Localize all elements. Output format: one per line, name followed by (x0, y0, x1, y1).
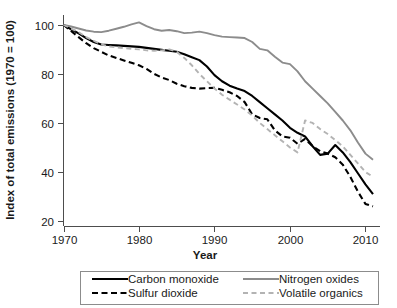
y-tick-label: 40 (41, 167, 54, 179)
x-tick-marks (65, 227, 366, 233)
x-tick-label: 1970 (52, 234, 78, 246)
legend-entries: Carbon monoxideNitrogen oxidesSulfur dio… (92, 273, 363, 299)
y-tick-label: 60 (41, 118, 54, 130)
legend-label-nitrogen-oxides: Nitrogen oxides (279, 273, 359, 285)
y-tick-labels: 20406080100 (35, 20, 54, 228)
x-tick-label: 1990 (202, 234, 228, 246)
legend: Carbon monoxideNitrogen oxidesSulfur dio… (81, 272, 379, 305)
emissions-index-chart: 20406080100 Index of total emissions (19… (0, 0, 397, 308)
legend-label-carbon-monoxide: Carbon monoxide (128, 273, 219, 285)
y-tick-marks (58, 26, 64, 222)
series-line-nitrogen-oxides (64, 22, 374, 159)
chart-canvas: 20406080100 Index of total emissions (19… (0, 0, 397, 308)
y-tick-label: 20 (41, 216, 54, 228)
y-tick-label: 100 (35, 20, 54, 32)
x-tick-label: 2000 (278, 234, 304, 246)
x-tick-labels: 19701980199020002010 (52, 234, 379, 246)
x-tick-label: 1980 (127, 234, 153, 246)
legend-label-sulfur-dioxide: Sulfur dioxide (128, 287, 198, 299)
x-axis-title: Year (193, 249, 218, 261)
legend-label-volatile-organics: Volatile organics (279, 287, 363, 299)
series-line-carbon-monoxide (64, 25, 374, 194)
series-line-sulfur-dioxide (64, 25, 374, 207)
y-axis-title: Index of total emissions (1970 = 100) (4, 20, 16, 220)
x-tick-label: 2010 (353, 234, 379, 246)
y-tick-label: 80 (41, 69, 54, 81)
data-series-group (64, 22, 374, 206)
x-axis: 19701980199020002010 Year (52, 227, 380, 262)
y-axis: 20406080100 Index of total emissions (19… (4, 15, 64, 228)
